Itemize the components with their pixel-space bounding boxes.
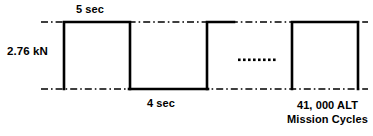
pulse-two xyxy=(207,22,234,89)
cycle-count-line-one: 41, 000 ALT xyxy=(287,98,368,112)
load-profile-diagram: 2.76 kN 5 sec 4 sec 41, 000 ALT Mission … xyxy=(0,0,373,136)
cycle-count-line-two: Mission Cycles xyxy=(287,112,368,126)
low-duration-label: 4 sec xyxy=(147,97,175,110)
high-duration-label: 5 sec xyxy=(76,3,104,16)
continuation-ellipsis-icon xyxy=(238,59,276,62)
pulse-one xyxy=(64,22,130,89)
amplitude-label: 2.76 kN xyxy=(7,45,48,58)
pulse-final xyxy=(292,22,358,89)
cycle-count-label: 41, 000 ALT Mission Cycles xyxy=(287,98,368,126)
